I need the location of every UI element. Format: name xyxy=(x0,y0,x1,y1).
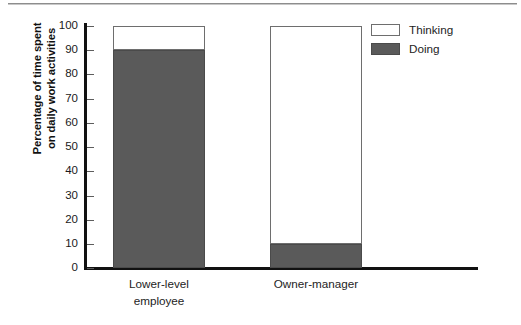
y-tick-80 xyxy=(87,74,94,75)
legend-label-doing: Doing xyxy=(409,43,440,55)
bar-lower-level-employee xyxy=(113,26,205,268)
bar-segment-thinking xyxy=(113,26,205,50)
y-tick-10 xyxy=(87,244,94,245)
x-category-label-line-1: Lower-level xyxy=(84,276,234,293)
legend-label-thinking: Thinking xyxy=(409,24,453,36)
source-caption-clipped xyxy=(0,318,521,325)
y-tick-30 xyxy=(87,196,94,197)
chart-legend: Thinking Doing xyxy=(371,21,453,59)
y-tick-50 xyxy=(87,147,94,148)
y-tick-0 xyxy=(87,268,94,269)
legend-item-doing: Doing xyxy=(371,40,453,57)
top-divider-rule xyxy=(8,3,517,5)
bar-segment-thinking xyxy=(270,26,362,244)
y-axis-title: Percentage of time spent on daily work a… xyxy=(30,0,59,194)
y-tick-label-0: 0 xyxy=(52,262,78,274)
y-tick-label-10: 10 xyxy=(52,238,78,250)
y-axis-title-line-1: Percentage of time spent xyxy=(30,0,44,194)
legend-swatch-thinking-icon xyxy=(371,24,400,36)
bar-segment-doing xyxy=(270,244,362,268)
y-axis-title-line-2: on daily work activities xyxy=(44,0,58,194)
y-axis-spine xyxy=(84,23,87,269)
y-tick-60 xyxy=(87,123,94,124)
x-category-label-line-1: Owner-manager xyxy=(241,276,391,293)
bar-segment-doing xyxy=(113,50,205,268)
legend-item-thinking: Thinking xyxy=(371,21,453,38)
x-category-label-line-2: employee xyxy=(84,293,234,310)
bar-owner-manager xyxy=(270,26,362,268)
y-tick-100 xyxy=(87,26,94,27)
x-category-label-lower-level-employee: Lower-level employee xyxy=(84,276,234,310)
y-tick-70 xyxy=(87,99,94,100)
chart-figure: 100 90 80 70 60 50 40 30 20 10 0 Percent… xyxy=(0,0,521,325)
x-category-label-owner-manager: Owner-manager xyxy=(241,276,391,293)
y-tick-40 xyxy=(87,171,94,172)
y-tick-90 xyxy=(87,50,94,51)
y-tick-label-20: 20 xyxy=(52,214,78,226)
legend-swatch-doing-icon xyxy=(371,43,400,55)
y-tick-20 xyxy=(87,220,94,221)
